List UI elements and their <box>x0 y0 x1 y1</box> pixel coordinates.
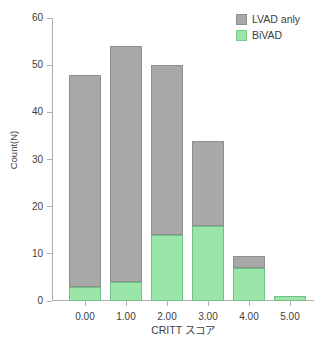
cropped-caption-strip <box>0 342 328 349</box>
bar-segment-lvad-anly-3.00 <box>192 141 224 226</box>
y-tick-label-50: 50 <box>32 59 43 71</box>
bar-group-4.00 <box>233 256 265 301</box>
x-tick-mark <box>126 301 127 306</box>
bar-group-1.00 <box>110 46 142 301</box>
y-tick-label-40: 40 <box>32 106 43 118</box>
x-tick-label-4: 4.00 <box>226 311 272 322</box>
y-axis-line <box>52 18 53 301</box>
bar-segment-bivad-2.00 <box>151 235 183 301</box>
y-tick-mark <box>47 65 52 66</box>
y-tick-40: 40 <box>22 106 52 118</box>
y-tick-mark <box>47 301 52 302</box>
x-tick-mark <box>249 301 250 306</box>
x-tick-label-2: 2.00 <box>144 311 190 322</box>
bar-segment-bivad-3.00 <box>192 226 224 301</box>
y-tick-mark <box>47 112 52 113</box>
chart-figure: LVAD anly BiVAD Count(N) 60 50 40 30 <box>0 0 328 349</box>
y-tick-label-30: 30 <box>32 154 43 166</box>
y-axis-title-text: Count(N) <box>8 131 19 170</box>
y-tick-label-20: 20 <box>32 201 43 213</box>
x-tick-mark <box>208 301 209 306</box>
bar-segment-lvad-anly-4.00 <box>233 256 265 268</box>
x-tick-label-3: 3.00 <box>185 311 231 322</box>
x-tick-label-0: 0.00 <box>62 311 108 322</box>
y-tick-20: 20 <box>22 201 52 213</box>
bar-segment-bivad-5.00 <box>274 296 306 301</box>
y-tick-50: 50 <box>22 59 52 71</box>
y-tick-60: 60 <box>22 12 52 24</box>
bar-segment-bivad-0.00 <box>69 287 101 301</box>
y-tick-label-60: 60 <box>32 12 43 24</box>
bar-segment-bivad-1.00 <box>110 282 142 301</box>
y-tick-mark <box>47 206 52 207</box>
x-tick-mark <box>290 301 291 306</box>
bar-group-5.00 <box>274 296 306 301</box>
bar-group-2.00 <box>151 65 183 301</box>
x-tick-label-5: 5.00 <box>267 311 313 322</box>
y-tick-mark <box>47 18 52 19</box>
bar-group-0.00 <box>69 75 101 301</box>
x-tick-label-1: 1.00 <box>103 311 149 322</box>
y-tick-0: 0 <box>22 295 52 307</box>
y-tick-label-10: 10 <box>32 248 43 260</box>
y-tick-mark <box>47 253 52 254</box>
y-axis-title: Count(N) <box>6 105 20 195</box>
bar-group-3.00 <box>192 141 224 301</box>
y-tick-30: 30 <box>22 154 52 166</box>
y-tick-label-0: 0 <box>37 295 43 307</box>
bar-segment-lvad-anly-2.00 <box>151 65 183 235</box>
y-tick-10: 10 <box>22 248 52 260</box>
x-axis-title: CRITT スコア <box>52 322 314 337</box>
x-tick-mark <box>167 301 168 306</box>
plot-area: 60 50 40 30 20 10 0 <box>52 18 314 301</box>
x-tick-mark <box>85 301 86 306</box>
bar-segment-lvad-anly-1.00 <box>110 46 142 282</box>
bar-segment-bivad-4.00 <box>233 268 265 301</box>
bar-segment-lvad-anly-0.00 <box>69 75 101 287</box>
y-tick-mark <box>47 159 52 160</box>
